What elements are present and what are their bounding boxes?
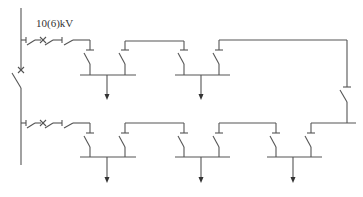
main-disconnect-icon bbox=[12, 73, 21, 88]
bottom-feeder-row bbox=[21, 120, 356, 183]
top-feeder-row bbox=[21, 37, 351, 123]
voltage-label: 10(6)kV bbox=[36, 17, 73, 30]
outgoing-arrow-icon bbox=[199, 94, 204, 100]
main-incoming-bus bbox=[12, 8, 24, 165]
single-line-diagram: 10(6)kV bbox=[0, 0, 363, 197]
tie-disconnect-icon bbox=[340, 90, 347, 102]
outgoing-arrow-icon bbox=[105, 177, 110, 183]
outgoing-arrow-icon bbox=[105, 94, 110, 100]
outgoing-arrow-icon bbox=[291, 177, 296, 183]
outgoing-arrow-icon bbox=[199, 177, 204, 183]
